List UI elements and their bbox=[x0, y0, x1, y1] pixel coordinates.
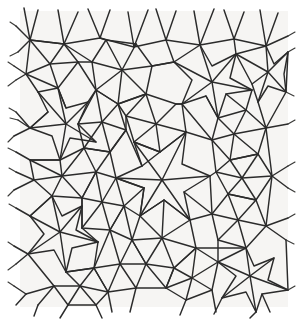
random-tiling-diagram bbox=[0, 0, 301, 324]
tiling-left-fringe bbox=[8, 22, 18, 286]
figure-root bbox=[0, 0, 301, 324]
